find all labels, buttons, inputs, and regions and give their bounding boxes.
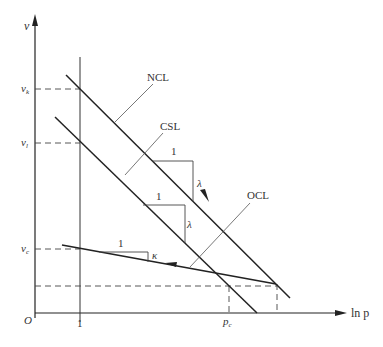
ncl-line bbox=[66, 75, 290, 298]
kappa-line bbox=[62, 245, 276, 284]
x-axis-label: ln p bbox=[351, 306, 369, 320]
ncl-run-label: 1 bbox=[171, 145, 177, 157]
x-axis-arrow-icon bbox=[335, 310, 347, 316]
y-axis-arrow-icon bbox=[32, 14, 38, 26]
vl-label: vl bbox=[21, 136, 28, 150]
csl-rise-label: λ bbox=[186, 218, 192, 230]
ncl-rise-label: λ bbox=[196, 177, 202, 189]
csl-run-label: 1 bbox=[156, 190, 162, 202]
y-axis-label: v bbox=[24, 19, 30, 33]
ncl-label: NCL bbox=[147, 71, 169, 83]
origin-label: O bbox=[24, 314, 32, 326]
kappa-rise-label: κ bbox=[152, 249, 158, 261]
x-tick-pc: pc bbox=[222, 315, 233, 329]
ncl-leader bbox=[115, 84, 153, 122]
x-axis bbox=[35, 310, 347, 316]
ocl-leader bbox=[190, 203, 250, 267]
ncl-arrow-icon bbox=[200, 189, 209, 202]
csl-label: CSL bbox=[160, 120, 180, 132]
x-tick-1: 1 bbox=[77, 317, 83, 329]
vc-label: vc bbox=[21, 242, 30, 256]
csl-line bbox=[55, 117, 257, 313]
ocl-label: OCL bbox=[247, 189, 269, 201]
y-axis bbox=[32, 14, 38, 318]
vk-label: vk bbox=[21, 82, 30, 96]
critical-state-diagram: NCL CSL OCL 1 λ 1 λ 1 κ v ln p O 1 pc vk… bbox=[0, 0, 383, 347]
kappa-run-label: 1 bbox=[118, 237, 124, 249]
